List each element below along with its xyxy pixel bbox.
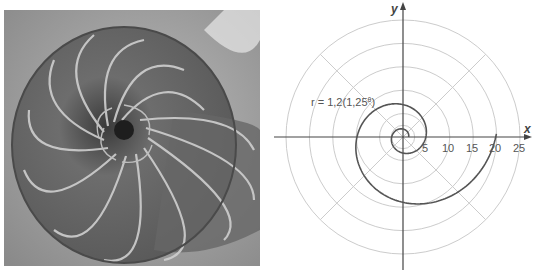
nautilus-shell-photo [4,10,260,266]
y-axis-label: y [390,2,399,16]
svg-text:10: 10 [442,142,454,154]
x-axis-label: x [523,122,532,136]
y-axis-arrow-icon [400,2,406,10]
equation-label: r = 1,2(1,25θ) [311,96,375,108]
polar-spiral-chart: y x 5 10 15 20 25 r = 1,2(1,25θ) [266,0,533,277]
svg-text:15: 15 [466,142,478,154]
svg-text:25: 25 [513,142,525,154]
tick-labels: 5 10 15 20 25 [422,142,525,154]
